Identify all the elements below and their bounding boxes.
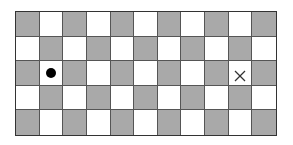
grid-cell-r3-c1	[16, 61, 40, 86]
grid-cell-r5-c8	[181, 110, 205, 135]
grid-cell-r2-c10	[229, 37, 253, 62]
grid-cell-r2-c11	[252, 37, 276, 62]
grid-cell-r2-c7	[158, 37, 182, 62]
checkerboard-grid	[15, 11, 277, 136]
grid-cell-r4-c11	[252, 86, 276, 111]
grid-cell-r4-c6	[134, 86, 158, 111]
grid-cell-r3-c11	[252, 61, 276, 86]
grid-cell-r4-c5	[111, 86, 135, 111]
grid-cell-r1-c7	[158, 12, 182, 37]
grid-cell-r3-c6	[134, 61, 158, 86]
grid-cell-r3-c9	[205, 61, 229, 86]
grid-cell-r1-c8	[181, 12, 205, 37]
grid-cell-r3-c5	[111, 61, 135, 86]
grid-cell-r4-c4	[87, 86, 111, 111]
grid-cell-r5-c9	[205, 110, 229, 135]
grid-cell-r2-c3	[63, 37, 87, 62]
grid-cell-r1-c3	[63, 12, 87, 37]
dot-marker-icon	[46, 68, 56, 78]
grid-cell-r5-c5	[111, 110, 135, 135]
grid-cell-r1-c4	[87, 12, 111, 37]
grid-cell-r5-c6	[134, 110, 158, 135]
grid-cell-r3-c4	[87, 61, 111, 86]
grid-cell-r2-c4	[87, 37, 111, 62]
grid-cell-r1-c10	[229, 12, 253, 37]
grid-cell-r3-c8	[181, 61, 205, 86]
grid-cell-r5-c7	[158, 110, 182, 135]
grid-cell-r1-c11	[252, 12, 276, 37]
grid-cell-r1-c5	[111, 12, 135, 37]
grid-cell-r3-c2	[40, 61, 64, 86]
grid-cell-r3-c7	[158, 61, 182, 86]
grid-cell-r1-c2	[40, 12, 64, 37]
grid-cell-r5-c3	[63, 110, 87, 135]
grid-cell-r3-c10	[229, 61, 253, 86]
grid-cell-r4-c2	[40, 86, 64, 111]
grid-cell-r4-c9	[205, 86, 229, 111]
grid-cell-r4-c3	[63, 86, 87, 111]
grid-cell-r1-c9	[205, 12, 229, 37]
grid-cell-r4-c7	[158, 86, 182, 111]
grid-cell-r5-c4	[87, 110, 111, 135]
grid-cell-r5-c2	[40, 110, 64, 135]
grid-cell-r2-c6	[134, 37, 158, 62]
grid-cell-r2-c5	[111, 37, 135, 62]
grid-cell-r2-c2	[40, 37, 64, 62]
grid-cell-r1-c6	[134, 12, 158, 37]
grid-cell-r2-c1	[16, 37, 40, 62]
x-marker-icon	[234, 67, 246, 79]
grid-cell-r1-c1	[16, 12, 40, 37]
grid-cell-r4-c10	[229, 86, 253, 111]
grid-cell-r4-c8	[181, 86, 205, 111]
grid-cell-r5-c10	[229, 110, 253, 135]
grid-cell-r5-c11	[252, 110, 276, 135]
grid-cell-r5-c1	[16, 110, 40, 135]
grid-cell-r3-c3	[63, 61, 87, 86]
grid-cell-r2-c9	[205, 37, 229, 62]
grid-cell-r2-c8	[181, 37, 205, 62]
grid-cell-r4-c1	[16, 86, 40, 111]
